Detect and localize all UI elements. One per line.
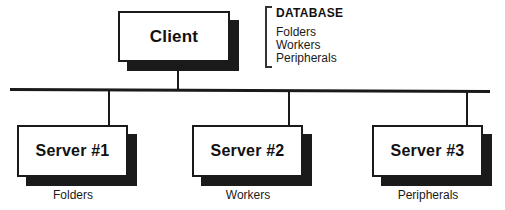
server-2-node: Server #2 (192, 125, 303, 177)
database-bracket-icon (265, 6, 272, 68)
server-2-node-panel: Server #2 (192, 125, 303, 177)
database-legend: DATABASE Folders Workers Peripherals (265, 6, 361, 68)
network-topology-diagram: Client DATABASE Folders Workers Peripher… (0, 0, 505, 210)
connector-client-to-bus (177, 62, 179, 90)
database-legend-item-peripherals: Peripherals (276, 52, 343, 65)
server-1-node: Server #1 (17, 125, 128, 177)
network-bus-line (10, 88, 490, 93)
client-node-panel: Client (118, 11, 230, 62)
connector-bus-to-server-2 (288, 90, 290, 125)
server-3-node: Server #3 (372, 125, 483, 177)
client-node-label: Client (150, 27, 198, 47)
connector-bus-to-server-3 (466, 90, 468, 125)
server-1-node-panel: Server #1 (17, 125, 128, 177)
server-3-node-panel: Server #3 (372, 125, 483, 177)
server-2-node-label: Server #2 (211, 142, 285, 160)
client-node: Client (118, 11, 230, 62)
database-legend-body: DATABASE Folders Workers Peripherals (276, 6, 343, 65)
server-1-caption: Folders (13, 188, 133, 202)
connector-bus-to-server-1 (108, 90, 110, 125)
server-3-caption: Peripherals (368, 188, 488, 202)
server-3-node-label: Server #3 (391, 142, 465, 160)
database-legend-items: Folders Workers Peripherals (276, 26, 343, 65)
server-2-caption: Workers (188, 188, 308, 202)
database-legend-title: DATABASE (276, 6, 343, 21)
server-1-node-label: Server #1 (36, 142, 110, 160)
